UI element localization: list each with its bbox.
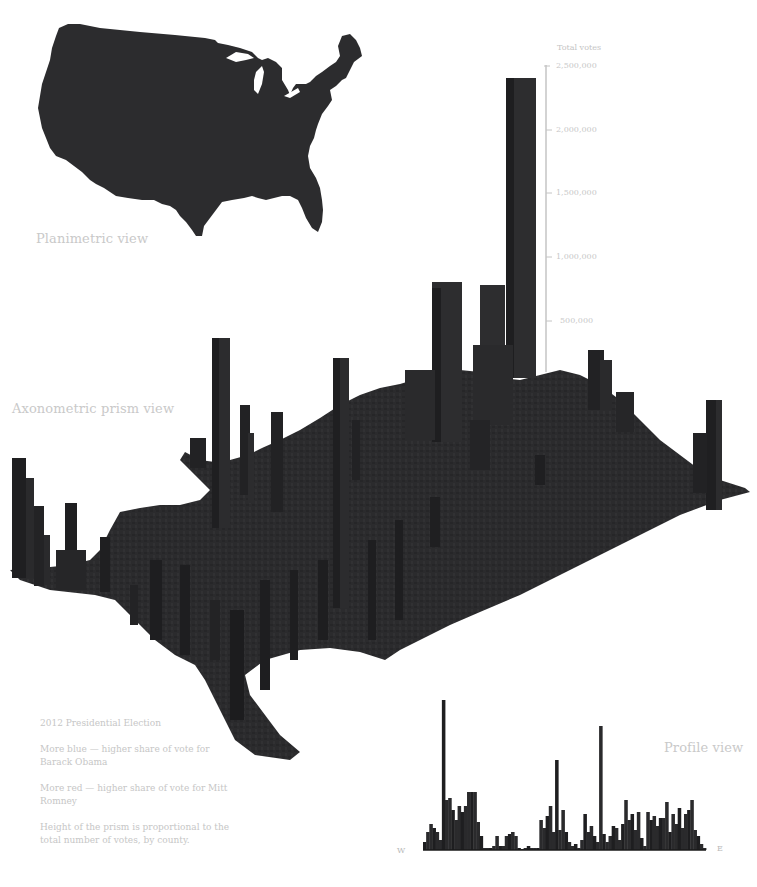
profile-bar (549, 806, 553, 850)
profile-bar (656, 826, 660, 850)
profile-bar (539, 820, 543, 850)
notes-title: 2012 Presidential Election (40, 717, 230, 730)
profile-bar (439, 840, 443, 850)
profile-bar (631, 814, 635, 850)
profile-bar (546, 816, 550, 850)
west-label: W (397, 846, 405, 855)
profile-bar (618, 840, 622, 850)
profile-bar (599, 726, 603, 850)
profile-bar (659, 818, 663, 850)
profile-bar (461, 812, 465, 850)
profile-bar (458, 806, 462, 850)
profile-bar (671, 814, 675, 850)
profile-bar (580, 840, 584, 850)
profile-bar (602, 834, 606, 850)
profile-bar (596, 842, 600, 850)
note-red: More red — higher share of vote for Mitt… (40, 782, 230, 808)
profile-bar (426, 832, 430, 850)
east-label: E (717, 844, 723, 853)
profile-bar (508, 834, 512, 850)
profile-bar (464, 806, 468, 850)
profile-bar (587, 832, 591, 850)
profile-bar (590, 826, 594, 850)
profile-bar (646, 812, 650, 850)
profile-bar (609, 836, 613, 850)
profile-bar (476, 822, 480, 850)
profile-bar (555, 760, 559, 850)
profile-bar (558, 830, 562, 850)
profile-bar (624, 800, 628, 850)
profile-bar (574, 844, 578, 850)
profile-bar (505, 836, 509, 850)
profile-bar (583, 814, 587, 850)
profile-bar (662, 818, 666, 850)
profile-bar (565, 832, 569, 850)
profile-bar (511, 832, 515, 850)
profile-bar (423, 842, 427, 850)
profile-bar (448, 798, 452, 850)
profile-bar (470, 792, 474, 850)
profile-bars (423, 700, 706, 850)
profile-bar (612, 826, 616, 850)
profile-bar (445, 800, 449, 850)
profile-bar (665, 802, 669, 850)
profile-bar (693, 830, 697, 850)
profile-bar (568, 842, 572, 850)
profile-bar (700, 844, 704, 850)
profile-bar (653, 816, 657, 850)
profile-bar (690, 800, 694, 850)
note-height: Height of the prism is proportional to t… (40, 821, 230, 847)
profile-bar (442, 700, 446, 850)
profile-view-label: Profile view (664, 740, 743, 755)
profile-bar (637, 812, 641, 850)
profile-bar (480, 836, 484, 850)
profile-bar (467, 792, 471, 850)
profile-bar (668, 832, 672, 850)
profile-bar (429, 824, 433, 850)
profile-bar (615, 828, 619, 850)
profile-bar (675, 824, 679, 850)
profile-bar (495, 836, 499, 850)
profile-bar (432, 828, 436, 850)
profile-bar (561, 810, 565, 850)
profile-bar (593, 836, 597, 850)
profile-bar (552, 832, 556, 850)
profile-bar (605, 842, 609, 850)
profile-bar (621, 824, 625, 850)
profile-bar (542, 828, 546, 850)
profile-bar (451, 810, 455, 850)
profile-bar (684, 814, 688, 850)
profile-bar (634, 830, 638, 850)
profile-bar (627, 820, 631, 850)
profile-bar (697, 836, 701, 850)
profile-bar (649, 820, 653, 850)
profile-bar (454, 820, 458, 850)
profile-bar (514, 836, 518, 850)
profile-bar (473, 792, 477, 850)
profile-bar (678, 808, 682, 850)
note-blue: More blue — higher share of vote for Bar… (40, 743, 230, 769)
profile-bar (640, 838, 644, 850)
profile-bar (687, 810, 691, 850)
profile-bar (681, 828, 685, 850)
profile-bar (436, 832, 440, 850)
